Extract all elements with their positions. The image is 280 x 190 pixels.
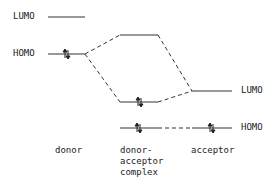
donor-homo-label: HOMO <box>13 48 35 59</box>
acceptor-lumo-label: LUMO <box>241 85 263 96</box>
correlation-upper-to-acceptor-lumo <box>158 35 192 91</box>
donor-lumo-label: LUMO <box>13 11 35 22</box>
column-label-acceptor: acceptor <box>191 145 234 156</box>
correlation-lower-to-acceptor-lumo <box>158 91 192 102</box>
acceptor-homo-label: HOMO <box>241 122 263 133</box>
column-label-donor: donor <box>55 145 82 156</box>
correlation-donor-homo-to-upper <box>85 35 120 54</box>
column-label-complex: donor- acceptor complex <box>120 145 163 178</box>
correlation-donor-homo-to-lower <box>85 54 120 102</box>
